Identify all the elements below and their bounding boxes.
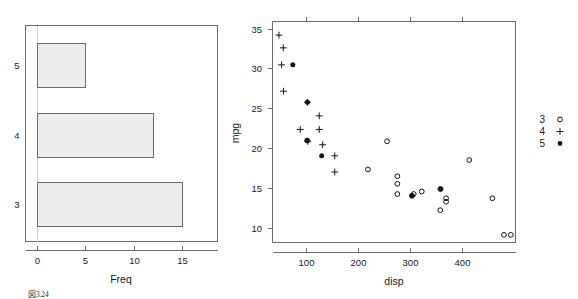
scatter-x-tick-label-400: 400	[455, 257, 471, 268]
scatter-panel: 35 30 25 20 15 10 mpg 100 200 300 400 di…	[229, 17, 516, 288]
scatter-x-tick-label-100: 100	[299, 257, 315, 268]
legend-label-3: 3	[539, 114, 545, 125]
scatter-y-tick-label-30: 30	[251, 63, 262, 74]
scatter-point-plus[interactable]	[280, 88, 287, 95]
bar-gear-4[interactable]	[38, 114, 154, 158]
scatter-point-filled[interactable]	[290, 62, 295, 67]
scatter-y-tick-label-15: 15	[251, 183, 262, 194]
barchart-panel: 0 5 10 15 Freq 5 4 3	[14, 26, 217, 286]
scatter-point-open[interactable]	[366, 167, 371, 172]
scatter-point-plus[interactable]	[331, 169, 338, 176]
scatter-y-tick-label-35: 35	[251, 24, 262, 35]
scatter-point-plus[interactable]	[316, 126, 323, 133]
scatter-point-open[interactable]	[438, 208, 443, 213]
barchart-y-tick-label-5: 5	[14, 60, 19, 71]
scatter-point-open[interactable]	[508, 232, 513, 237]
figure-caption: 図3.24	[28, 288, 49, 299]
scatter-point-open[interactable]	[395, 192, 400, 197]
barchart-y-tick-label-3: 3	[14, 199, 19, 210]
scatter-point-open[interactable]	[419, 189, 424, 194]
scatter-points-group	[276, 32, 514, 238]
scatter-point-open[interactable]	[490, 196, 495, 201]
scatter-point-open[interactable]	[385, 139, 390, 144]
scatter-point-open[interactable]	[395, 181, 400, 186]
scatter-point-open[interactable]	[444, 196, 449, 201]
bar-gear-3[interactable]	[38, 183, 183, 227]
scatter-point-plus[interactable]	[278, 61, 285, 68]
scatter-point-plus[interactable]	[331, 152, 338, 159]
scatter-point-open[interactable]	[395, 174, 400, 179]
scatter-point-plus[interactable]	[280, 44, 287, 51]
barchart-x-axis-title: Freq	[110, 273, 132, 285]
legend-open-circle-icon	[558, 117, 563, 122]
scatter-point-filled[interactable]	[305, 138, 310, 143]
bar-gear-5[interactable]	[38, 44, 86, 88]
scatter-point-filled[interactable]	[319, 153, 324, 158]
scatter-point-plus[interactable]	[276, 32, 283, 39]
scatter-point-open[interactable]	[467, 158, 472, 163]
scatter-point-filled[interactable]	[305, 100, 310, 105]
scatter-x-tick-label-200: 200	[351, 257, 367, 268]
barchart-x-tick-label-15: 15	[177, 255, 188, 266]
scatter-point-filled[interactable]	[438, 186, 443, 191]
barchart-x-tick-label-0: 0	[35, 255, 40, 266]
scatter-point-filled[interactable]	[409, 193, 414, 198]
scatter-point-plus[interactable]	[319, 141, 326, 148]
legend-filled-circle-icon	[558, 141, 563, 146]
scatter-x-axis-title: disp	[384, 275, 403, 287]
scatter-point-plus[interactable]	[316, 112, 323, 119]
scatter-x-tick-label-300: 300	[403, 257, 419, 268]
scatter-y-tick-label-25: 25	[251, 103, 262, 114]
legend-label-5: 5	[539, 138, 545, 149]
scatter-point-open[interactable]	[502, 232, 507, 237]
barchart-y-tick-label-4: 4	[14, 130, 19, 141]
barchart-x-tick-label-5: 5	[83, 255, 88, 266]
scatter-plot-frame	[273, 22, 516, 243]
legend-plus-icon	[557, 128, 564, 135]
scatter-point-plus[interactable]	[297, 126, 304, 133]
scatter-y-tick-label-20: 20	[251, 143, 262, 154]
scatter-y-axis-title: mpg	[229, 123, 241, 144]
legend: 3 4 5	[539, 114, 563, 149]
legend-label-4: 4	[539, 126, 545, 137]
barchart-x-tick-label-10: 10	[129, 255, 140, 266]
scatter-y-tick-label-10: 10	[251, 223, 262, 234]
